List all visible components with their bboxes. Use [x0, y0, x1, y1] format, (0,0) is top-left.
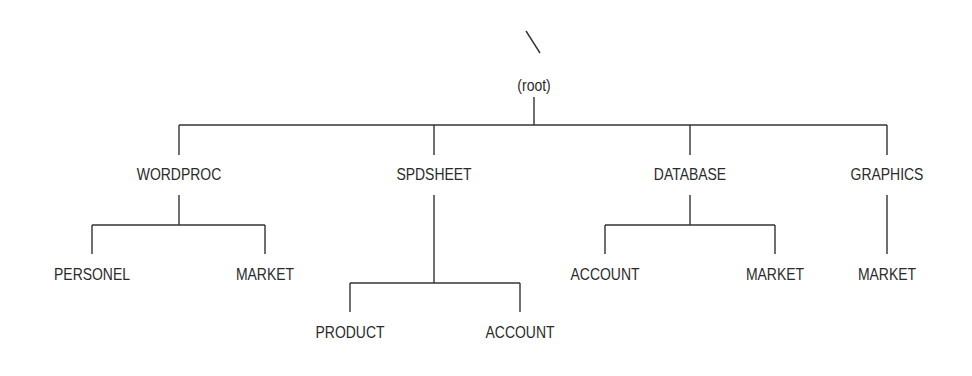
node-graphics-market: MARKET: [858, 265, 916, 285]
node-wordproc-market: MARKET: [236, 265, 294, 285]
node-graphics: GRAPHICS: [851, 165, 924, 185]
node-database-account: ACCOUNT: [571, 265, 640, 285]
node-root: (root): [517, 76, 550, 96]
node-database-market: MARKET: [746, 265, 804, 285]
node-database: DATABASE: [654, 165, 726, 185]
node-wordproc-personel: PERSONEL: [54, 265, 130, 285]
node-spdsheet-product: PRODUCT: [316, 323, 385, 343]
node-wordproc: WORDPROC: [137, 165, 221, 185]
root-slash: [526, 31, 540, 53]
node-spdsheet-account: ACCOUNT: [486, 323, 555, 343]
tree-connectors: [0, 0, 972, 376]
directory-tree-diagram: (root) WORDPROC SPDSHEET DATABASE GRAPHI…: [0, 0, 972, 376]
node-spdsheet: SPDSHEET: [396, 165, 471, 185]
